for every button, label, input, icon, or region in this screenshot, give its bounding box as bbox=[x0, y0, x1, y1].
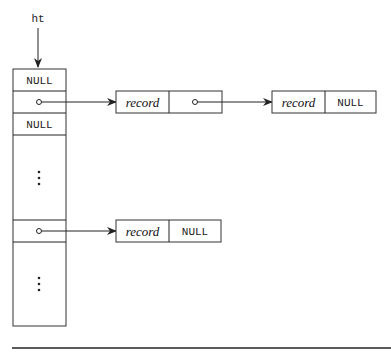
slot-2-null: NULL bbox=[26, 119, 52, 131]
slot-3-ellipsis-icon bbox=[38, 171, 41, 186]
chain-2-node-1: record NULL bbox=[116, 220, 221, 242]
chain-1-node-2: record NULL bbox=[272, 91, 376, 113]
svg-text:NULL: NULL bbox=[182, 226, 208, 238]
slot-1-pointer bbox=[37, 100, 42, 105]
hash-table: NULL NULL bbox=[13, 69, 66, 326]
svg-text:NULL: NULL bbox=[337, 97, 363, 109]
hash-table-diagram: ht NULL NULL record reco bbox=[0, 0, 391, 354]
slot-0-null: NULL bbox=[26, 75, 52, 87]
slot-4-pointer bbox=[37, 229, 42, 234]
next-pointer bbox=[193, 100, 198, 105]
svg-text:record: record bbox=[126, 95, 160, 110]
svg-text:record: record bbox=[126, 224, 160, 239]
svg-text:record: record bbox=[282, 95, 316, 110]
ht-label: ht bbox=[31, 13, 44, 25]
slot-5-ellipsis-icon bbox=[38, 277, 41, 292]
